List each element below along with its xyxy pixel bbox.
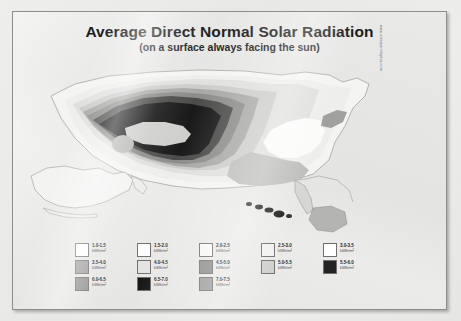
legend-swatch	[137, 243, 151, 257]
legend-unit: kWh/m²	[154, 265, 168, 270]
legend-item[interactable]: 3.5-4.0 kWh/m²	[75, 259, 137, 276]
hawaii-island-4	[274, 211, 285, 218]
legend-text: 2.5-3.0 kWh/m²	[278, 242, 292, 253]
legend-swatch	[199, 243, 213, 257]
legend-item[interactable]: 1.0-1.5 kWh/m²	[75, 242, 137, 259]
legend-row: 6.0-6.5 kWh/m² 6.5-7.0 kWh/m² 7.0-7.5	[75, 276, 385, 293]
legend-item[interactable]: 5.5-6.0 kWh/m²	[323, 259, 385, 276]
legend-unit: kWh/m²	[278, 248, 292, 253]
legend-unit: kWh/m²	[216, 248, 230, 253]
legend-item[interactable]: 6.0-6.5 kWh/m²	[75, 276, 137, 293]
legend-item[interactable]: 4.0-4.5 kWh/m²	[137, 259, 199, 276]
interior-pocket-circle	[112, 135, 134, 153]
legend-item[interactable]: 1.5-2.0 kWh/m²	[137, 242, 199, 259]
florida	[295, 180, 313, 214]
legend-text: 5.5-6.0 kWh/m²	[340, 259, 354, 270]
hawaii-island-3	[265, 207, 274, 212]
legend-item[interactable]: 2.0-2.5 kWh/m²	[199, 242, 261, 259]
legend-text: 7.0-7.5 kWh/m²	[216, 276, 230, 287]
alaska-landmass	[31, 166, 133, 208]
hawaii-island-1	[246, 202, 252, 206]
legend-swatch	[261, 260, 275, 274]
legend-swatch	[199, 260, 213, 274]
legend-text: 5.0-5.5 kWh/m²	[278, 259, 292, 270]
legend-swatch	[261, 243, 275, 257]
map-region-hawaii	[246, 202, 292, 218]
caribbean-blob	[309, 206, 347, 232]
solar-radiation-map	[13, 56, 446, 241]
legend-swatch	[75, 243, 89, 257]
legend-text: 4.5-5.0 kWh/m²	[216, 259, 230, 270]
legend-text: 3.5-4.0 kWh/m²	[92, 259, 106, 270]
legend-item[interactable]: 5.0-5.5 kWh/m²	[261, 259, 323, 276]
legend-unit: kWh/m²	[278, 265, 292, 270]
legend-unit: kWh/m²	[92, 248, 106, 253]
legend-swatch	[199, 277, 213, 291]
legend-text: 1.5-2.0 kWh/m²	[154, 242, 168, 253]
legend-row: 1.0-1.5 kWh/m² 1.5-2.0 kWh/m² 2.0-2.5	[75, 242, 385, 259]
legend-swatch	[137, 260, 151, 274]
legend-swatch	[137, 277, 151, 291]
poster-sheet: Average Direct Normal Solar Radiation (o…	[12, 11, 447, 310]
legend-row: 3.5-4.0 kWh/m² 4.0-4.5 kWh/m² 4.5-5.0	[75, 259, 385, 276]
legend-unit: kWh/m²	[216, 265, 230, 270]
legend-unit: kWh/m²	[92, 282, 106, 287]
legend-unit: kWh/m²	[154, 282, 168, 287]
solar-radiation-poster: Average Direct Normal Solar Radiation (o…	[0, 0, 461, 321]
hawaii-island-5	[286, 214, 292, 218]
legend-item[interactable]: 7.0-7.5 kWh/m²	[199, 276, 261, 293]
legend-swatch	[75, 277, 89, 291]
legend-unit: kWh/m²	[340, 248, 354, 253]
legend-text: 4.0-4.5 kWh/m²	[154, 259, 168, 270]
legend-swatch	[75, 260, 89, 274]
legend-item[interactable]: 2.5-3.0 kWh/m²	[261, 242, 323, 259]
legend: 1.0-1.5 kWh/m² 1.5-2.0 kWh/m² 2.0-2.5	[75, 242, 385, 298]
legend-text: 1.0-1.5 kWh/m²	[92, 242, 106, 253]
legend-text: 2.0-2.5 kWh/m²	[216, 242, 230, 253]
legend-swatch	[323, 243, 337, 257]
legend-text: 3.0-3.5 kWh/m²	[340, 242, 354, 253]
legend-unit: kWh/m²	[340, 265, 354, 270]
legend-text: 6.5-7.0 kWh/m²	[154, 276, 168, 287]
legend-unit: kWh/m²	[154, 248, 168, 253]
legend-text: 6.0-6.5 kWh/m²	[92, 276, 106, 287]
legend-swatch	[323, 260, 337, 274]
alaska-aleutians	[43, 208, 97, 218]
legend-unit: kWh/m²	[216, 282, 230, 287]
map-area	[13, 56, 446, 241]
legend-item[interactable]: 3.0-3.5 kWh/m²	[323, 242, 385, 259]
legend-item[interactable]: 6.5-7.0 kWh/m²	[137, 276, 199, 293]
hawaii-island-2	[255, 205, 263, 210]
legend-item[interactable]: 4.5-5.0 kWh/m²	[199, 259, 261, 276]
legend-unit: kWh/m²	[92, 265, 106, 270]
